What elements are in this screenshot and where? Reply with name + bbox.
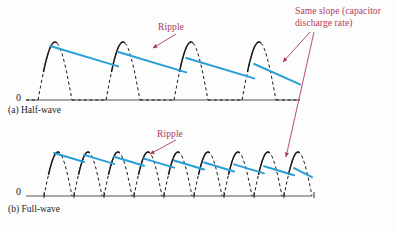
hump-crest-solid	[168, 152, 179, 175]
ripple-label-full-wave: Ripple	[157, 129, 183, 141]
ripple-discharge-segment	[186, 58, 254, 78]
hump-crest-solid	[48, 152, 59, 175]
ripple-discharge-segment	[84, 155, 114, 164]
ripple-discharge-segment	[174, 161, 204, 170]
same-slope-arrow-full	[286, 32, 314, 157]
zero-label-full-wave: 0	[16, 186, 21, 197]
zero-label-half-wave: 0	[16, 92, 21, 103]
figure-container: Same slope (capacitordischarge rate) Rip…	[0, 0, 396, 232]
panel-full-wave	[26, 152, 314, 198]
same-slope-line-1: Same slope (capacitor	[295, 6, 381, 16]
ripple-discharge-segment	[50, 46, 118, 66]
hump-crest-solid	[138, 152, 149, 175]
caption-half-wave: (a) Half-wave	[8, 105, 61, 115]
ripple-discharge-segment	[54, 153, 84, 162]
hump-crest-solid	[288, 152, 299, 175]
ripple-discharge-segment	[254, 64, 300, 84]
panel-half-wave	[26, 42, 300, 100]
ripple-discharge-segment	[118, 52, 186, 72]
same-slope-annotation: Same slope (capacitordischarge rate)	[295, 6, 381, 29]
same-slope-line-2: discharge rate)	[295, 18, 353, 28]
same-slope-arrow-half	[283, 32, 310, 62]
ripple-discharge-segment	[204, 162, 234, 171]
ripple-waveform-figure	[0, 0, 396, 232]
ripple-discharge-segment	[294, 168, 312, 177]
caption-full-wave: (b) Full-wave	[8, 204, 60, 214]
ripple-discharge-segment	[144, 159, 174, 168]
hump-crest-solid	[111, 42, 125, 72]
ripple-arrow-full	[150, 140, 176, 154]
ripple-discharge-segment	[114, 157, 144, 166]
hump-crest-solid	[247, 42, 261, 72]
ripple-arrow-half	[153, 34, 176, 48]
ripple-label-half-wave: Ripple	[158, 22, 184, 34]
